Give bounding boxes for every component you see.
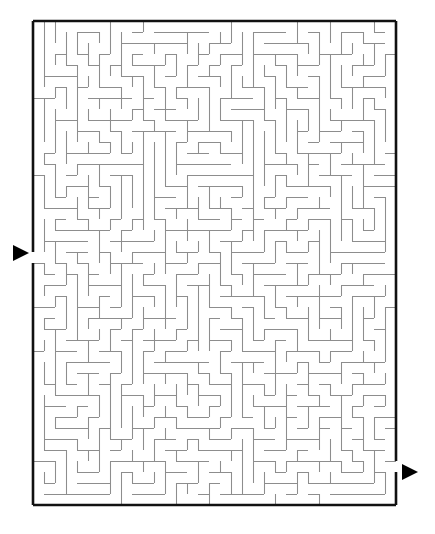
start-arrow [12, 244, 30, 262]
finish-arrow [401, 463, 419, 481]
maze-figure [0, 0, 435, 534]
maze-grid [0, 0, 435, 534]
